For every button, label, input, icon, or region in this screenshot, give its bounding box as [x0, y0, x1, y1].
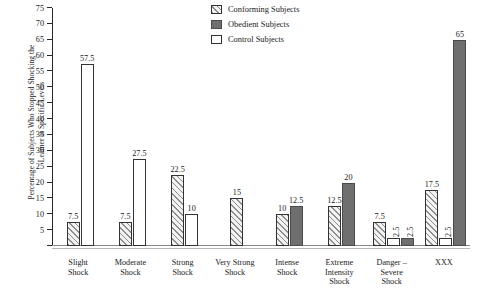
- bar-group: 7.52.52.5: [373, 8, 414, 246]
- bar-group: 1012.5: [276, 8, 303, 246]
- x-axis-label-2: ModerateShock: [104, 258, 156, 277]
- y-axis-tick-label: 60: [22, 51, 44, 60]
- x-axis-baseline-secondary: [52, 248, 470, 249]
- y-axis-line: [52, 8, 53, 246]
- y-axis-tick-mark: [47, 245, 52, 246]
- x-axis-label-line: Danger –: [366, 258, 418, 268]
- y-axis-tick-label: 5: [22, 226, 44, 235]
- x-axis-label-line: Shock: [261, 268, 313, 278]
- bar-group: 7.557.5: [67, 8, 94, 246]
- plot-area: 51015202530354045505560657075 7.557.57.5…: [52, 8, 470, 246]
- y-axis-tick-label: 55: [22, 67, 44, 76]
- bar-group: 12.520: [328, 8, 355, 246]
- y-axis-tick-mark: [47, 150, 52, 151]
- x-axis-label-line: Extreme: [313, 258, 365, 268]
- bar-chart: Percentage of Subjects Who Stopped Shock…: [0, 0, 483, 288]
- y-axis-tick-label: 70: [22, 19, 44, 28]
- y-axis-tick-label: 20: [22, 178, 44, 187]
- x-axis-label-line: Strong: [157, 258, 209, 268]
- bar-control: [185, 214, 198, 246]
- x-axis-label-line: Severe: [366, 268, 418, 278]
- x-axis-label-line: Slight: [52, 258, 104, 268]
- x-axis-label-line: Very Strong: [209, 258, 261, 268]
- y-axis-tick-mark: [47, 7, 52, 8]
- y-axis-tick-mark: [47, 23, 52, 24]
- bar-value-label: 2.5: [392, 227, 401, 237]
- y-axis-tick-label: 65: [22, 35, 44, 44]
- bar-group: 15: [230, 8, 243, 246]
- y-axis-tick-mark: [47, 134, 52, 135]
- bar-group: 17.52.565: [425, 8, 466, 246]
- x-axis-label-line: Shock: [52, 268, 104, 278]
- y-axis-tick-label: 40: [22, 115, 44, 124]
- y-axis-tick-label: 50: [22, 83, 44, 92]
- bar-value-label: 57.5: [80, 54, 94, 63]
- x-axis-label-line: Moderate: [104, 258, 156, 268]
- bar-value-label: 10: [278, 204, 286, 213]
- y-axis-tick-mark: [47, 197, 52, 198]
- bar-group: 7.527.5: [119, 8, 146, 246]
- bar-control: [81, 64, 94, 246]
- x-axis-label-line: XXX: [418, 258, 470, 268]
- y-axis-tick-mark: [47, 70, 52, 71]
- y-axis-tick-mark: [47, 55, 52, 56]
- bar-value-label: 22.5: [170, 165, 184, 174]
- bar-conforming: [276, 214, 289, 246]
- bar-value-label: 7.5: [375, 212, 385, 221]
- x-axis-label-line: Intensity: [313, 268, 365, 278]
- x-axis-label-5: IntenseShock: [261, 258, 313, 277]
- bar-value-label: 7.5: [120, 212, 130, 221]
- y-axis-tick-label: 15: [22, 194, 44, 203]
- y-axis-tick-label: 75: [22, 4, 44, 13]
- x-axis-label-line: Shock: [157, 268, 209, 278]
- x-axis-label-3: StrongShock: [157, 258, 209, 277]
- x-axis-label-line: Shock: [209, 268, 261, 278]
- y-axis-tick-label: 45: [22, 99, 44, 108]
- bar-obedient: [290, 206, 303, 246]
- bar-obedient: [453, 40, 466, 246]
- y-axis-tick-mark: [47, 182, 52, 183]
- y-axis-tick-mark: [47, 166, 52, 167]
- bar-value-label: 17.5: [425, 180, 439, 189]
- x-axis-label-7: Danger –SevereShock: [366, 258, 418, 287]
- bar-value-label: 12.5: [327, 196, 341, 205]
- bar-obedient: [401, 238, 414, 246]
- x-axis-label-line: Intense: [261, 258, 313, 268]
- x-axis-label-line: Shock: [366, 277, 418, 287]
- bar-value-label: 10: [188, 204, 196, 213]
- y-axis-tick-mark: [47, 102, 52, 103]
- bar-conforming: [67, 222, 80, 246]
- bar-conforming: [425, 190, 438, 246]
- y-axis-tick-mark: [47, 229, 52, 230]
- x-axis-label-6: ExtremeIntensityShock: [313, 258, 365, 287]
- bar-value-label: 20: [344, 173, 352, 182]
- y-axis-tick-mark: [47, 39, 52, 40]
- bar-conforming: [328, 206, 341, 246]
- y-axis-tick-label: 35: [22, 130, 44, 139]
- x-axis-label-1: SlightShock: [52, 258, 104, 277]
- bar-value-label: 65: [456, 30, 464, 39]
- y-axis-tick-label: 30: [22, 146, 44, 155]
- bar-value-label: 2.5: [444, 227, 453, 237]
- y-axis-tick-mark: [47, 118, 52, 119]
- y-axis-tick-label: 10: [22, 210, 44, 219]
- bar-value-label: 15: [233, 188, 241, 197]
- bar-conforming: [230, 198, 243, 246]
- bar-control: [133, 159, 146, 246]
- bar-value-label: 2.5: [406, 227, 415, 237]
- y-axis-tick-label: 25: [22, 162, 44, 171]
- bar-value-label: 7.5: [68, 212, 78, 221]
- bar-group: 22.510: [171, 8, 198, 246]
- x-axis-label-line: Shock: [104, 268, 156, 278]
- y-axis-tick-mark: [47, 213, 52, 214]
- y-axis-tick-mark: [47, 86, 52, 87]
- bar-value-label: 12.5: [289, 196, 303, 205]
- x-axis-label-line: Shock: [313, 277, 365, 287]
- bar-obedient: [342, 183, 355, 246]
- x-axis-label-4: Very StrongShock: [209, 258, 261, 277]
- bar-control: [387, 238, 400, 246]
- x-axis-label-8: XXX: [418, 258, 470, 268]
- bar-conforming: [373, 222, 386, 246]
- bar-value-label: 27.5: [132, 149, 146, 158]
- bar-control: [439, 238, 452, 246]
